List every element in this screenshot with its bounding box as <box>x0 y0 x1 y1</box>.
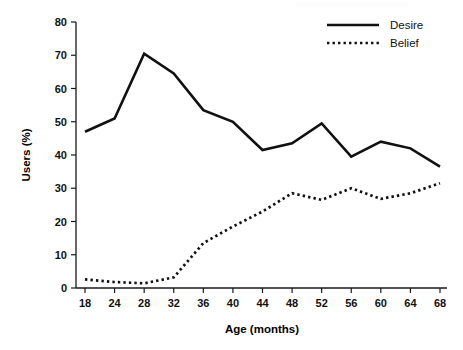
legend-label-desire: Desire <box>390 19 423 31</box>
x-axis-ticks <box>85 288 440 293</box>
x-axis-tick-labels: 18242832364044485256606468 <box>79 297 446 309</box>
chart-figure: 01020304050607080 1824283236404448525660… <box>0 0 463 350</box>
x-tick-label: 68 <box>434 297 446 309</box>
y-axis-ticks <box>71 22 76 288</box>
y-tick-label: 0 <box>61 282 67 294</box>
legend-label-belief: Belief <box>390 37 420 49</box>
y-axis-title: Users (%) <box>20 128 32 181</box>
y-tick-label: 20 <box>55 216 67 228</box>
x-tick-label: 60 <box>375 297 387 309</box>
x-tick-label: 52 <box>316 297 328 309</box>
x-tick-label: 44 <box>256 297 269 309</box>
x-tick-label: 18 <box>79 297 91 309</box>
y-tick-label: 60 <box>55 83 67 95</box>
x-tick-label: 40 <box>227 297 239 309</box>
y-tick-label: 80 <box>55 16 67 28</box>
y-tick-label: 10 <box>55 249 67 261</box>
y-tick-label: 70 <box>55 49 67 61</box>
x-tick-label: 64 <box>404 297 417 309</box>
x-tick-label: 32 <box>168 297 180 309</box>
line-chart-canvas: 01020304050607080 1824283236404448525660… <box>0 0 463 350</box>
scan-artifact <box>296 1 408 8</box>
series-line-desire <box>85 54 440 167</box>
x-tick-label: 28 <box>138 297 150 309</box>
x-tick-label: 56 <box>345 297 357 309</box>
y-tick-label: 30 <box>55 182 67 194</box>
y-axis-tick-labels: 01020304050607080 <box>55 16 67 294</box>
y-tick-label: 40 <box>55 149 67 161</box>
x-tick-label: 24 <box>108 297 121 309</box>
x-tick-label: 36 <box>197 297 209 309</box>
x-tick-label: 48 <box>286 297 298 309</box>
legend: Desire Belief <box>327 19 423 49</box>
x-axis-title: Age (months) <box>225 323 299 335</box>
series-line-belief <box>85 183 440 283</box>
y-tick-label: 50 <box>55 116 67 128</box>
